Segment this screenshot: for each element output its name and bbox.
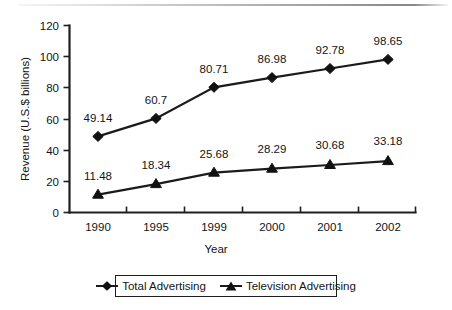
data-labels-total-advertising: 49.14 60.7 80.71 86.98 92.78 98.65	[84, 35, 403, 124]
chart-legend: Total Advertising Television Advertising	[115, 275, 337, 297]
chart-page: 0 20 40 60 80 100 120 1990 1995 1999 200…	[0, 0, 452, 310]
series-markers-total-advertising	[93, 54, 393, 141]
x-tick-label: 2000	[259, 221, 285, 233]
data-label: 80.71	[200, 63, 229, 75]
series-line-total-advertising	[98, 59, 388, 136]
data-label: 98.65	[374, 35, 403, 47]
data-label: 86.98	[258, 53, 287, 65]
legend-label: Television Advertising	[246, 280, 356, 292]
series-total-advertising: 49.14 60.7 80.71 86.98 92.78 98.65	[84, 35, 403, 141]
series-markers-television-advertising	[93, 156, 394, 199]
legend-label: Total Advertising	[122, 280, 206, 292]
data-label: 60.7	[145, 94, 167, 106]
y-tick-label: 20	[46, 176, 59, 188]
data-label: 30.68	[316, 139, 345, 151]
data-label: 49.14	[84, 112, 113, 124]
legend-item-television-advertising[interactable]: Television Advertising	[220, 280, 356, 292]
triangle-marker-icon	[220, 280, 242, 292]
x-axis-tick-labels: 1990 1995 1999 2000 2001 2002	[85, 221, 401, 233]
data-label: 18.34	[142, 159, 171, 171]
data-labels-television-advertising: 11.48 18.34 25.68 28.29 30.68 33.18	[84, 135, 402, 182]
x-axis-title: Year	[204, 243, 227, 255]
x-tick-label: 2001	[317, 221, 343, 233]
y-axis-title: Revenue (U.S.$ billions)	[19, 57, 31, 181]
data-label: 33.18	[374, 135, 403, 147]
y-tick-label: 60	[46, 114, 59, 126]
y-axis-tick-labels: 0 20 40 60 80 100 120	[40, 20, 59, 219]
line-chart: 0 20 40 60 80 100 120 1990 1995 1999 200…	[0, 0, 452, 310]
y-tick-label: 0	[53, 207, 59, 219]
y-tick-label: 80	[46, 82, 59, 94]
data-label: 11.48	[84, 170, 112, 182]
diamond-marker-icon	[96, 280, 118, 292]
x-tick-label: 1995	[143, 221, 169, 233]
x-tick-label: 1999	[201, 221, 227, 233]
y-tick-label: 40	[46, 145, 59, 157]
data-label: 28.29	[258, 143, 287, 155]
x-tick-label: 2002	[375, 221, 401, 233]
y-tick-label: 100	[40, 51, 59, 63]
data-label: 92.78	[316, 44, 345, 56]
data-label: 25.68	[200, 148, 229, 160]
y-tick-label: 120	[40, 20, 59, 32]
series-television-advertising: 11.48 18.34 25.68 28.29 30.68 33.18	[84, 135, 402, 198]
legend-item-total-advertising[interactable]: Total Advertising	[96, 280, 206, 292]
x-tick-label: 1990	[85, 221, 111, 233]
